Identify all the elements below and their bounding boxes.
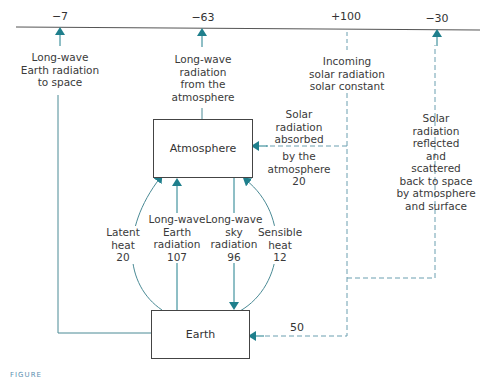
label-longwave-earth-space: Long-wave Earth radiation to space xyxy=(21,51,99,89)
label-reflected: Solar radiation reflected and scattered … xyxy=(396,112,475,212)
atmosphere-box: Atmosphere xyxy=(153,119,253,178)
value-incoming-solar: +100 xyxy=(331,10,361,23)
space-boundary-line xyxy=(16,27,480,30)
label-surface-solar: 50 xyxy=(290,321,304,334)
label-longwave-earth-radiation: Long-wave Earth radiation 107 xyxy=(149,213,206,263)
atmosphere-label: Atmosphere xyxy=(170,142,237,155)
label-longwave-sky-radiation: Long-wave sky radiation 96 xyxy=(206,213,263,263)
value-longwave-earth-space: −7 xyxy=(52,10,68,23)
label-sensible-heat: Sensible heat 12 xyxy=(258,226,302,264)
label-longwave-atmosphere: Long-wave radiation from the atmosphere xyxy=(172,53,235,103)
label-incoming-solar: Incoming solar radiation solar constant xyxy=(309,55,385,93)
figure-caption: FIGURE xyxy=(10,371,42,378)
value-longwave-atmosphere: −63 xyxy=(191,11,214,24)
earth-label: Earth xyxy=(186,328,216,341)
value-reflected: −30 xyxy=(425,12,448,25)
label-solar-absorbed-bottom: by the atmosphere 20 xyxy=(268,150,331,188)
label-solar-absorbed-top: Solar radiation absorbed xyxy=(274,108,323,146)
earth-space-line xyxy=(58,95,151,333)
label-latent-heat: Latent heat 20 xyxy=(106,226,140,264)
earth-box: Earth xyxy=(151,310,250,359)
